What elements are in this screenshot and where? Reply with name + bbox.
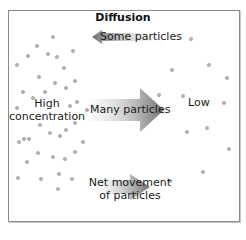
particle-high xyxy=(39,177,42,180)
particle-high xyxy=(16,176,19,179)
particle-high xyxy=(26,54,29,57)
low-label: Low xyxy=(188,96,210,109)
particle-high xyxy=(17,140,20,143)
particle-high xyxy=(51,155,54,158)
particle-low xyxy=(157,93,160,96)
particle-high xyxy=(62,66,65,69)
particle-high xyxy=(37,75,40,78)
particle-high xyxy=(63,157,66,160)
particle-high xyxy=(35,44,38,47)
particle-high xyxy=(53,81,56,84)
particle-high xyxy=(56,187,59,190)
particle-low xyxy=(181,94,184,97)
particle-high xyxy=(81,140,84,143)
particle-low xyxy=(227,147,230,150)
particle-high xyxy=(25,160,28,163)
particle-high xyxy=(22,137,25,140)
particle-low xyxy=(205,126,208,129)
particle-high xyxy=(27,137,30,140)
particle-high xyxy=(46,52,49,55)
particle-high xyxy=(57,172,60,175)
net-line1: Net movement xyxy=(80,176,180,189)
particle-low xyxy=(185,130,188,133)
particle-high xyxy=(43,90,46,93)
particle-low xyxy=(225,76,228,79)
particle-high xyxy=(48,131,51,134)
particle-high xyxy=(15,63,18,66)
particle-high xyxy=(21,90,24,93)
particle-high xyxy=(71,49,74,52)
particle-high xyxy=(51,35,54,38)
particle-low xyxy=(222,101,225,104)
some-particles-label: Some particles xyxy=(100,30,182,43)
particle-high xyxy=(64,128,67,131)
high-line2: concentration xyxy=(4,110,90,123)
particle-high xyxy=(38,123,41,126)
net-movement-label: Net movement of particles xyxy=(80,176,180,202)
particle-low xyxy=(189,37,192,40)
particle-low xyxy=(170,68,173,71)
many-particles-label: Many particles xyxy=(90,103,170,116)
particle-low xyxy=(201,170,204,173)
particle-high xyxy=(73,79,76,82)
particle-high xyxy=(58,134,61,137)
net-line2: of particles xyxy=(80,189,180,202)
particle-low xyxy=(207,63,210,66)
high-concentration-label: High concentration xyxy=(4,97,90,123)
particle-high xyxy=(64,86,67,89)
particle-high xyxy=(55,55,58,58)
particle-high xyxy=(36,151,39,154)
high-line1: High xyxy=(4,97,90,110)
particle-high xyxy=(70,177,73,180)
particle-high xyxy=(73,150,76,153)
